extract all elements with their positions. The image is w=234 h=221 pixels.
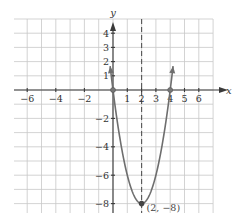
x-tick-label: 2 bbox=[139, 93, 145, 104]
y-tick-label: −2 bbox=[95, 113, 109, 124]
x-tick-label: 5 bbox=[181, 93, 187, 104]
grid bbox=[14, 19, 213, 213]
x-tick-label: −2 bbox=[77, 93, 91, 104]
y-tick-label: −6 bbox=[95, 170, 109, 181]
vertex-label: (2, −8) bbox=[147, 202, 181, 213]
y-tick-label: −8 bbox=[95, 198, 109, 209]
vertex-point bbox=[139, 201, 145, 207]
y-tick-label: 3 bbox=[103, 42, 109, 53]
parabola-chart: −6−4−2123456 4321−2−4−6−8 x y (2, −8) bbox=[0, 0, 234, 221]
y-tick-label: 2 bbox=[103, 56, 109, 67]
x-tick-label: 6 bbox=[196, 93, 202, 104]
x-tick-label: −6 bbox=[20, 93, 34, 104]
y-tick-label: 1 bbox=[103, 70, 109, 81]
x-tick-label: 1 bbox=[124, 93, 130, 104]
y-tick-label: 4 bbox=[103, 28, 109, 39]
y-axis-label: y bbox=[109, 7, 116, 18]
x-tick-label: −4 bbox=[49, 93, 63, 104]
y-axis-arrow-icon bbox=[110, 22, 116, 31]
y-tick-label: −4 bbox=[95, 141, 109, 152]
x-axis-label: x bbox=[226, 85, 232, 96]
intercept-point bbox=[168, 88, 173, 93]
intercept-point bbox=[111, 88, 116, 93]
x-tick-label: 3 bbox=[153, 93, 159, 104]
y-tick-labels: 4321−2−4−6−8 bbox=[95, 28, 115, 209]
